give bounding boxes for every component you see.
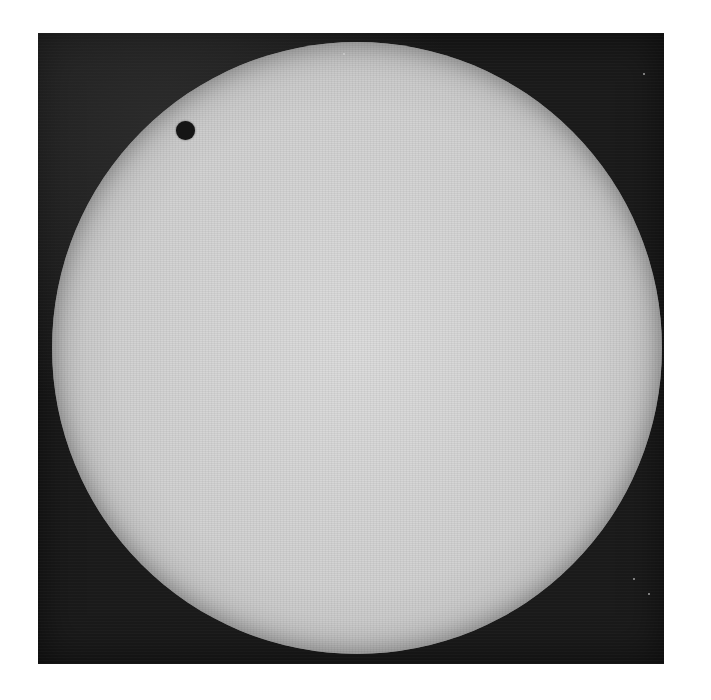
solar-disc [52,42,662,654]
star-speck [643,73,645,75]
planet-silhouette [176,121,195,140]
photo-frame [38,33,664,664]
star-speck [648,593,650,595]
star-speck [343,53,345,55]
star-speck [633,578,635,580]
